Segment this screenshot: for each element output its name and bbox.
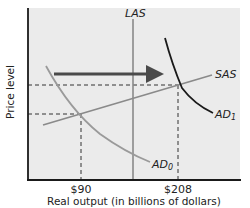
- las-label: LAS: [125, 7, 146, 20]
- ad0-label-sub: 0: [168, 163, 173, 172]
- sas-label: SAS: [215, 68, 237, 81]
- y-axis-title: Price level: [4, 65, 16, 119]
- ad1-label-main: AD: [214, 108, 231, 121]
- aggregate-supply-demand-chart: LAS SAS AD1 AD0 $90 $208 Real output (in…: [0, 0, 250, 208]
- ad0-label-main: AD: [151, 158, 168, 171]
- x-axis-title: Real output (in billions of dollars): [47, 195, 221, 207]
- ad1-label-sub: 1: [231, 113, 236, 122]
